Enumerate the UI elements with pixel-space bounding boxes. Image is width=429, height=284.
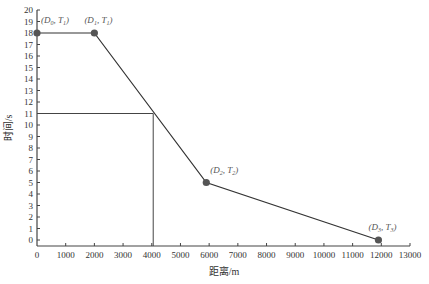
y-axis-label: 时间/s (2, 115, 14, 142)
x-tick-label: 12000 (370, 250, 393, 260)
x-tick-label: 1000 (57, 250, 76, 260)
annotations (37, 114, 153, 247)
y-tick-label: 16 (24, 51, 34, 61)
y-tick-label: 5 (29, 178, 34, 188)
data-point-label: (D3, T3) (368, 222, 396, 233)
series-polyline (37, 33, 378, 240)
x-tick-label: 9000 (286, 250, 305, 260)
y-tick-label: 7 (29, 155, 34, 165)
x-tick-label: 0 (35, 250, 40, 260)
x-tick-label: 4000 (143, 250, 162, 260)
x-axis-label: 距离/m (209, 265, 240, 277)
x-tick-label: 3000 (114, 250, 133, 260)
x-tick-label: 8000 (258, 250, 277, 260)
data-point-marker (203, 179, 210, 186)
y-tick-label: 12 (24, 97, 33, 107)
x-tick-label: 10000 (313, 250, 336, 260)
chart: 0100020003000400050006000700080009000100… (0, 0, 429, 284)
x-tick-label: 5000 (171, 250, 190, 260)
y-tick-label: 17 (24, 40, 34, 50)
y-tick-label: 11 (24, 109, 33, 119)
y-tick-label: 4 (29, 189, 34, 199)
y-tick-label: 8 (29, 143, 34, 153)
y-tick-label: 20 (24, 5, 34, 15)
y-tick-label: 6 (29, 166, 34, 176)
x-tick-label: 2000 (85, 250, 104, 260)
x-tick-label: 11000 (342, 250, 365, 260)
x-tick-label: 6000 (200, 250, 219, 260)
data-point-label: (D1, T1) (84, 15, 112, 26)
y-tick-label: 19 (24, 17, 34, 27)
y-tick-label: 13 (24, 86, 34, 96)
axes: 0100020003000400050006000700080009000100… (24, 5, 422, 260)
series-line (37, 33, 378, 240)
y-tick-label: 18 (24, 28, 34, 38)
data-point-label: (D0, T1) (41, 15, 69, 26)
data-points: (D0, T1)(D1, T1)(D2, T2)(D3, T3) (33, 15, 396, 244)
x-tick-label: 7000 (229, 250, 248, 260)
y-tick-label: 14 (24, 74, 34, 84)
y-tick-label: 1 (29, 224, 34, 234)
data-point-label: (D2, T2) (210, 165, 238, 176)
y-tick-label: 0 (29, 235, 34, 245)
data-point-marker (91, 29, 98, 36)
data-point-marker (33, 29, 40, 36)
x-tick-label: 13000 (399, 250, 422, 260)
y-tick-label: 10 (24, 120, 34, 130)
y-tick-label: 3 (29, 201, 34, 211)
data-point-marker (375, 236, 382, 243)
y-tick-label: 9 (29, 132, 34, 142)
y-tick-label: 15 (24, 63, 34, 73)
y-tick-label: 2 (29, 212, 34, 222)
